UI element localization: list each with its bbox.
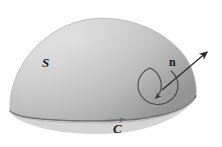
figure-canvas — [0, 0, 222, 147]
surface-label-S: S — [42, 56, 49, 69]
stokes-theorem-figure: S C n — [0, 0, 222, 147]
normal-vector-label-n: n — [169, 56, 176, 68]
boundary-label-C: C — [113, 122, 122, 135]
surface-S — [10, 18, 196, 121]
